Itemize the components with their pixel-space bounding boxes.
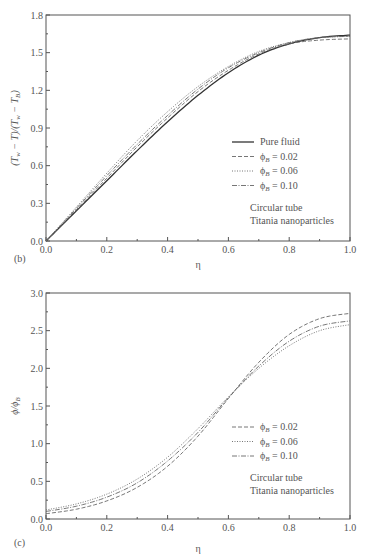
y-tick-label: 0.9 <box>31 123 44 134</box>
panel-label: (b) <box>14 253 26 265</box>
annotation-text: Titania nanoparticles <box>250 215 334 226</box>
figure: 0.00.20.40.60.81.00.00.30.60.91.21.51.8η… <box>0 0 366 559</box>
x-tick-label: 0.4 <box>161 522 174 533</box>
x-tick-label: 0.6 <box>222 244 235 255</box>
x-tick-label: 0.8 <box>283 244 296 255</box>
x-tick-label: 1.0 <box>344 244 357 255</box>
legend-label: ϕB = 0.06 <box>260 165 298 178</box>
annotation-text: Titania nanoparticles <box>250 485 334 496</box>
y-tick-label: 1.5 <box>31 401 44 412</box>
series-line-1 <box>46 325 350 510</box>
y-tick-label: 0.5 <box>31 476 44 487</box>
x-tick-label: 0.2 <box>101 244 114 255</box>
series-line-3 <box>46 36 350 241</box>
y-tick-label: 0.0 <box>31 236 44 247</box>
y-tick-label: 1.5 <box>31 47 44 58</box>
x-axis-label: η <box>195 543 200 554</box>
y-tick-label: 2.0 <box>31 363 44 374</box>
y-tick-label: 0.0 <box>31 514 44 525</box>
y-tick-label: 0.6 <box>31 160 44 171</box>
y-tick-label: 2.5 <box>31 325 44 336</box>
legend-label: ϕB = 0.02 <box>260 421 298 434</box>
panel-label: (c) <box>14 537 25 549</box>
series-line-0 <box>46 35 350 241</box>
series-line-0 <box>46 313 350 513</box>
series-line-2 <box>46 36 350 241</box>
x-tick-label: 0.6 <box>222 522 235 533</box>
annotation-text: Circular tube <box>250 202 303 213</box>
y-tick-label: 1.8 <box>31 10 44 21</box>
legend-label: ϕB = 0.10 <box>260 450 298 463</box>
legend-label: ϕB = 0.06 <box>260 436 298 449</box>
y-axis-label: ϕ/ϕB <box>9 397 22 415</box>
x-tick-label: 0.8 <box>283 522 296 533</box>
series-line-1 <box>46 39 350 241</box>
x-axis-label: η <box>195 259 200 270</box>
legend-label: Pure fluid <box>260 136 300 147</box>
chart-panel-b: 0.00.20.40.60.81.00.00.30.60.91.21.51.8η… <box>9 10 356 271</box>
chart-panel-c: 0.00.20.40.60.81.00.00.51.01.52.02.53.0η… <box>9 288 356 555</box>
y-tick-label: 3.0 <box>31 288 44 299</box>
x-tick-label: 0.2 <box>101 522 114 533</box>
y-axis-label: (Tw − T)/(Tw − TB) <box>9 90 22 166</box>
plot-frame <box>46 15 350 241</box>
x-tick-label: 0.4 <box>161 244 174 255</box>
series-line-2 <box>46 321 350 512</box>
legend-label: ϕB = 0.10 <box>260 180 298 193</box>
y-tick-label: 1.0 <box>31 438 44 449</box>
y-tick-label: 1.2 <box>31 85 44 96</box>
annotation-text: Circular tube <box>250 472 303 483</box>
y-tick-label: 0.3 <box>31 198 44 209</box>
legend-label: ϕB = 0.02 <box>260 151 298 164</box>
x-tick-label: 1.0 <box>344 522 357 533</box>
